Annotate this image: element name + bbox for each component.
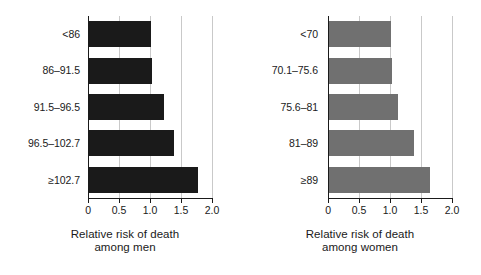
category-label: 86–91.5 — [42, 65, 84, 76]
bar-women-2 — [329, 94, 398, 120]
bar-row — [89, 130, 212, 156]
x-tick-label: 0.5 — [112, 204, 126, 216]
x-axis-tick — [359, 198, 360, 203]
x-tick-label: 0 — [325, 204, 331, 216]
bar-group-men — [89, 16, 212, 198]
bar-women-0 — [329, 21, 391, 47]
x-axis-title-line2: among women — [260, 241, 460, 254]
plot-area-men — [88, 16, 212, 198]
x-axis-tick — [181, 198, 182, 203]
category-label: 91.5–96.5 — [34, 102, 84, 113]
bar-women-4 — [329, 167, 430, 193]
bar-row — [89, 94, 212, 120]
category-axis-labels-women: <70 70.1–75.6 75.6–81 81–89 ≥89 — [248, 16, 322, 198]
x-axis-tick-labels-men: 0 0.5 1.0 1.5 2.0 — [88, 204, 212, 218]
category-label: 70.1–75.6 — [272, 65, 322, 76]
category-label: ≥89 — [301, 175, 322, 186]
bar-men-1 — [89, 58, 152, 84]
x-axis-title-men: Relative risk of death among men — [30, 228, 220, 253]
bar-row — [89, 58, 212, 84]
x-tick-label: 1.5 — [414, 204, 428, 216]
x-axis-tick — [150, 198, 151, 203]
x-axis-tick — [421, 198, 422, 203]
bar-row — [329, 94, 452, 120]
x-axis-tick-labels-women: 0 0.5 1.0 1.5 2.0 — [328, 204, 452, 218]
y-axis-title-men: Waist quintiles — [0, 0, 14, 28]
bar-men-4 — [89, 167, 198, 193]
bar-row — [329, 21, 452, 47]
bar-row — [329, 58, 452, 84]
category-label: <70 — [300, 29, 322, 40]
bar-row — [89, 167, 212, 193]
x-tick-label: 1.5 — [174, 204, 188, 216]
x-axis-title-women: Relative risk of death among women — [260, 228, 460, 253]
category-axis-labels-men: <86 86–91.5 91.5–96.5 96.5–102.7 ≥102.7 — [18, 16, 84, 198]
x-axis-tick — [328, 198, 329, 203]
category-label: ≥102.7 — [48, 175, 84, 186]
bar-group-women — [329, 16, 452, 198]
bar-row — [329, 130, 452, 156]
gridline — [452, 16, 453, 198]
chart-panel-men: Waist quintiles <86 86–91.5 91.5–96.5 96… — [0, 0, 240, 275]
x-tick-label: 1.0 — [143, 204, 157, 216]
category-label: 75.6–81 — [280, 102, 322, 113]
x-tick-label: 2.0 — [205, 204, 219, 216]
dual-bar-chart-figure: Waist quintiles <86 86–91.5 91.5–96.5 96… — [0, 0, 481, 275]
category-label: 81–89 — [289, 138, 322, 149]
x-tick-label: 0.5 — [352, 204, 366, 216]
x-axis-tick — [212, 198, 213, 203]
bar-men-3 — [89, 130, 174, 156]
x-axis-tick — [88, 198, 89, 203]
gridline — [212, 16, 213, 198]
bar-women-3 — [329, 130, 414, 156]
bar-men-0 — [89, 21, 151, 47]
x-tick-label: 1.0 — [383, 204, 397, 216]
bar-women-1 — [329, 58, 392, 84]
bar-row — [89, 21, 212, 47]
x-axis-title-line2: among men — [30, 241, 220, 254]
x-tick-label: 2.0 — [445, 204, 459, 216]
category-label: <86 — [62, 29, 84, 40]
x-axis-tick — [390, 198, 391, 203]
x-axis-title-line1: Relative risk of death — [306, 228, 415, 240]
bar-men-2 — [89, 94, 164, 120]
bar-row — [329, 167, 452, 193]
chart-panel-women: <70 70.1–75.6 75.6–81 81–89 ≥89 — [240, 0, 481, 275]
x-axis-tick — [452, 198, 453, 203]
category-label: 96.5–102.7 — [28, 138, 84, 149]
x-tick-label: 0 — [85, 204, 91, 216]
plot-area-women — [328, 16, 452, 198]
x-axis-title-line1: Relative risk of death — [71, 228, 180, 240]
x-axis-tick — [119, 198, 120, 203]
